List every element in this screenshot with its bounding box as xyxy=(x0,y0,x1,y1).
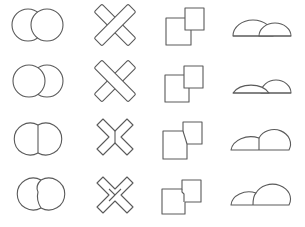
bars-left-front xyxy=(94,60,136,102)
row-notched-border xyxy=(17,177,290,214)
row-straight-border xyxy=(14,119,290,159)
row-right-front xyxy=(12,4,291,46)
circles-right-front xyxy=(12,9,63,41)
circles-left-front xyxy=(13,65,63,97)
bars-notched-border xyxy=(97,177,133,213)
bars-right-front xyxy=(94,4,136,46)
domes-straight-border xyxy=(231,130,290,150)
bars-straight-border xyxy=(97,119,133,155)
squares-right-front xyxy=(166,8,204,45)
squares-straight-border xyxy=(163,122,202,159)
row-left-front xyxy=(13,60,291,102)
circles-straight-border xyxy=(14,123,61,155)
domes-notched-border xyxy=(231,184,291,205)
domes-left-front xyxy=(233,80,291,93)
squares-left-front xyxy=(165,66,203,102)
stimulus-figure xyxy=(0,0,305,227)
domes-right-front xyxy=(233,20,291,36)
squares-notched-border xyxy=(162,180,201,214)
stimulus-grid xyxy=(0,0,305,227)
circles-notched-border xyxy=(17,178,64,210)
